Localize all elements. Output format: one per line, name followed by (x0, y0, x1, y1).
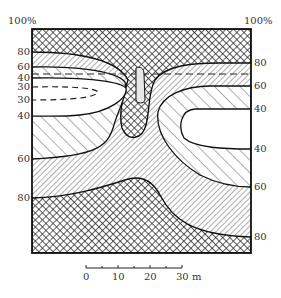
zonation-diagram (0, 0, 281, 298)
top-right-label: 100% (244, 16, 273, 26)
top-left-label: 100% (8, 16, 37, 26)
scale-label-10: 10 (112, 272, 125, 282)
right-label-60: 60 (254, 81, 267, 91)
right-label-40b: 40 (254, 144, 267, 154)
scale-label-20: 20 (144, 272, 157, 282)
zone-lt40-right (181, 109, 251, 149)
left-label-30: 30 (4, 82, 30, 92)
right-label-60b: 60 (254, 182, 267, 192)
right-label-40: 40 (254, 104, 267, 114)
right-label-80: 80 (254, 58, 267, 68)
scale-label-30m: 30 m (176, 272, 201, 282)
left-label-30b: 30 (4, 95, 30, 105)
left-label-40b: 40 (4, 111, 30, 121)
scale-label-0: 0 (83, 272, 89, 282)
left-label-80b: 80 (4, 193, 30, 203)
right-label-80b: 80 (254, 232, 267, 242)
left-label-80: 80 (4, 47, 30, 57)
central-column (136, 67, 145, 103)
scale-bar (86, 265, 182, 268)
left-label-60b: 60 (4, 154, 30, 164)
left-label-60: 60 (4, 62, 30, 72)
